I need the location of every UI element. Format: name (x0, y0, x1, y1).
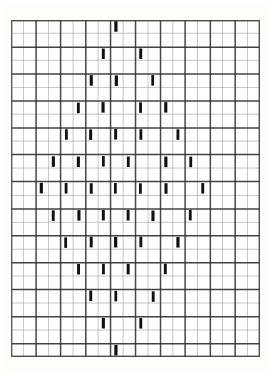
pattern-mark (151, 75, 154, 86)
pattern-mark (139, 102, 142, 113)
pattern-mark (64, 237, 67, 248)
pattern-mark (40, 183, 43, 194)
pattern-mark (65, 183, 68, 194)
grid-sheet (11, 20, 260, 357)
pattern-mark (164, 102, 167, 113)
grid-pattern-chart (11, 20, 260, 357)
pattern-mark (114, 183, 117, 194)
pattern-mark (114, 129, 117, 140)
pattern-mark (102, 156, 105, 167)
pattern-mark (89, 291, 92, 302)
pattern-mark (115, 75, 118, 86)
pattern-mark (114, 237, 117, 248)
pattern-mark (189, 210, 192, 221)
pattern-mark (139, 129, 142, 140)
pattern-mark (152, 291, 155, 302)
pattern-mark (127, 156, 130, 167)
pattern-mark (101, 102, 104, 113)
pattern-mark (176, 237, 179, 248)
pattern-mark (164, 264, 167, 275)
pattern-marks (40, 21, 204, 355)
pattern-mark (164, 183, 167, 194)
pattern-mark (90, 237, 93, 248)
pattern-mark (114, 291, 117, 302)
pattern-mark (114, 345, 117, 356)
pattern-mark (90, 75, 93, 86)
pattern-mark (151, 211, 154, 222)
pattern-mark (164, 157, 167, 168)
pattern-mark (139, 183, 142, 194)
pattern-mark (102, 318, 105, 329)
pattern-mark (102, 264, 105, 275)
pattern-mark (139, 237, 142, 248)
pattern-mark (114, 21, 117, 32)
pattern-mark (201, 183, 204, 194)
pattern-mark (77, 210, 80, 221)
pattern-mark (52, 210, 55, 221)
pattern-mark (77, 103, 80, 114)
pattern-mark (102, 210, 105, 221)
pattern-mark (176, 129, 179, 140)
pattern-mark (77, 157, 80, 168)
pattern-mark (127, 210, 130, 221)
pattern-mark (65, 129, 68, 140)
pattern-mark (102, 49, 105, 60)
pattern-mark (139, 318, 142, 329)
pattern-mark (90, 183, 93, 194)
pattern-mark (77, 264, 80, 275)
pattern-mark (127, 264, 130, 275)
page-root: Diamond pattern on grid paper Photocopie… (0, 0, 271, 375)
pattern-mark (139, 48, 142, 59)
pattern-mark (52, 156, 55, 167)
pattern-mark (189, 157, 192, 168)
pattern-mark (89, 129, 92, 140)
